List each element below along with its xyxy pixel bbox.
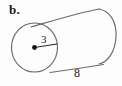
problem-label: b.	[9, 3, 20, 16]
cylinder-figure: b. 3 8	[0, 0, 122, 86]
center-dot-icon	[32, 45, 37, 50]
radius-measure-label: 3	[41, 34, 47, 45]
cylinder-far-cap-icon	[99, 9, 116, 64]
length-measure-label: 8	[74, 67, 80, 79]
